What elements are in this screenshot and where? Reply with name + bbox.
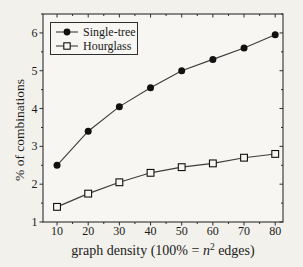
data-point-hourglass (116, 179, 123, 186)
data-point-single-tree (178, 67, 185, 74)
x-tick-label: 20 (82, 224, 94, 238)
data-point-single-tree (272, 31, 279, 38)
data-point-hourglass (54, 203, 61, 210)
data-point-single-tree (147, 84, 154, 91)
y-tick-label: 6 (32, 26, 38, 40)
y-tick-label: 2 (32, 177, 38, 191)
data-point-hourglass (178, 164, 185, 171)
data-point-hourglass (272, 151, 279, 158)
x-tick-label: 80 (269, 224, 281, 238)
data-point-single-tree (54, 162, 61, 169)
data-point-single-tree (85, 128, 92, 135)
chart-canvas: 1020304050607080123456 (0, 0, 303, 267)
filled-circle-marker-icon (55, 27, 79, 37)
x-tick-label: 60 (207, 224, 219, 238)
x-tick-label: 10 (51, 224, 63, 238)
x-tick-label: 50 (176, 224, 188, 238)
data-point-single-tree (209, 56, 216, 63)
legend-item-single-tree: Single-tree (55, 25, 135, 38)
chart-figure: 1020304050607080123456 Single-tree Hourg… (0, 0, 303, 267)
x-axis-label-suffix: edges) (215, 243, 255, 258)
y-axis-label: % of combinations (12, 79, 28, 181)
data-point-hourglass (241, 154, 248, 161)
data-point-hourglass (85, 190, 92, 197)
x-tick-label: 40 (145, 224, 157, 238)
data-point-hourglass (147, 169, 154, 176)
legend-label-single-tree: Single-tree (83, 26, 136, 38)
x-tick-label: 30 (113, 224, 125, 238)
x-axis-label: graph density (100% = n2 edges) (43, 239, 283, 259)
data-point-single-tree (116, 103, 123, 110)
x-tick-label: 70 (238, 224, 250, 238)
legend-item-hourglass: Hourglass (55, 39, 135, 52)
y-tick-label: 3 (32, 139, 38, 153)
x-axis-label-text: graph density (100% = (71, 243, 203, 258)
data-point-single-tree (241, 45, 248, 52)
open-square-marker-icon (55, 41, 79, 51)
x-axis-label-variable: n (203, 243, 210, 258)
data-point-hourglass (209, 160, 216, 167)
legend-label-hourglass: Hourglass (83, 40, 131, 52)
chart-legend: Single-tree Hourglass (50, 22, 138, 55)
y-tick-label: 4 (32, 102, 38, 116)
y-tick-label: 1 (32, 215, 38, 229)
y-tick-label: 5 (32, 64, 38, 78)
